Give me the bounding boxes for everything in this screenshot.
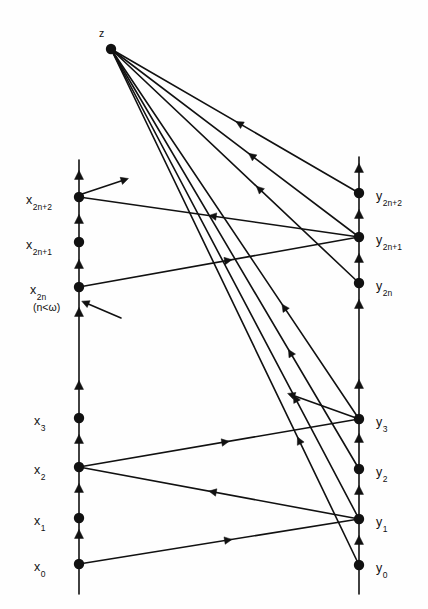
left-chain-arrowhead-0 xyxy=(75,170,84,179)
left-chain-arrowhead-1 xyxy=(75,214,84,223)
label-y2: y2 xyxy=(376,462,387,482)
node-y2n1[interactable] xyxy=(354,232,364,242)
label-x2-subscript: 2 xyxy=(41,472,46,482)
nodes-group xyxy=(74,44,364,570)
label-x2n2-subscript: 2n+2 xyxy=(33,202,52,212)
left-chain-arrowhead-7 xyxy=(75,529,84,538)
chain-arrowheads-group xyxy=(75,163,364,544)
label-y3-subscript: 3 xyxy=(383,424,388,434)
node-x2n1[interactable] xyxy=(74,237,84,247)
cross-edge-x2n-to-y2n1 xyxy=(79,237,359,287)
node-y2n2[interactable] xyxy=(354,188,364,198)
label-x0-subscript: 0 xyxy=(41,569,46,579)
label-y2n1-subscript: 2n+1 xyxy=(383,242,402,252)
node-y0[interactable] xyxy=(354,560,364,570)
label-y2n-subscript: 2n xyxy=(383,288,392,298)
right-chain-arrowhead-6 xyxy=(355,485,364,494)
fan-arrowhead-y2n1-to-z xyxy=(249,153,257,161)
label-index-range-note: (n<ω) xyxy=(33,301,60,313)
left-chain-arrowhead-6 xyxy=(75,483,84,492)
label-z: z xyxy=(99,27,104,39)
node-y2[interactable] xyxy=(354,464,364,474)
chain-axis-lines xyxy=(79,157,359,594)
label-x1-base: x xyxy=(34,514,40,528)
label-y2n2: y2n+2 xyxy=(376,186,401,206)
node-z[interactable] xyxy=(106,44,116,54)
cross-edge-x0-to-y1 xyxy=(79,519,359,564)
label-x0: x0 xyxy=(34,557,45,577)
diagram-canvas: x0x1x2x3x2nx2n+1x2n+2y0y1y2y3y2ny2n+1y2n… xyxy=(0,0,428,609)
label-y1-subscript: 1 xyxy=(383,524,388,534)
label-y2-base: y xyxy=(376,465,382,479)
label-y2n2-base: y xyxy=(376,189,382,203)
label-x3-base: x xyxy=(34,414,40,428)
node-x0[interactable] xyxy=(74,559,84,569)
cross-arrowhead-x0-to-y1 xyxy=(224,537,232,544)
label-y2n1-base: y xyxy=(376,233,382,247)
cross-arrowhead-x2-to-y3 xyxy=(221,439,229,446)
cross-arrowhead-y1-to-x2 xyxy=(209,489,217,496)
label-x2n: x2n xyxy=(30,280,46,300)
label-y0-base: y xyxy=(376,561,382,575)
dangling-edge-x2n-incoming xyxy=(86,303,121,318)
label-x3: x3 xyxy=(34,411,45,431)
fan-edge-y3-to-z xyxy=(111,49,359,419)
dangling-edge-x2n2-outgoing xyxy=(82,180,124,194)
right-chain-arrowhead-4 xyxy=(355,379,364,388)
fan-edge-y2n1-to-z xyxy=(111,49,359,237)
right-chain-arrowhead-3 xyxy=(355,299,364,308)
right-chain-arrowhead-7 xyxy=(355,535,364,544)
label-y1: y1 xyxy=(376,512,387,532)
label-y2n1: y2n+1 xyxy=(376,230,401,250)
label-y3: y3 xyxy=(376,412,387,432)
label-y2n-base: y xyxy=(376,279,382,293)
cross-edge-y3-to-dangle xyxy=(292,395,359,419)
label-x2n1: x2n+1 xyxy=(26,235,51,255)
label-y3-base: y xyxy=(376,415,382,429)
label-y2-subscript: 2 xyxy=(383,474,388,484)
graph-svg xyxy=(0,0,428,609)
fan-edge-y2n-to-z xyxy=(111,49,359,283)
label-y0-subscript: 0 xyxy=(383,570,388,580)
label-x2n-base: x xyxy=(30,283,36,297)
label-x2: x2 xyxy=(34,460,45,480)
cross-edge-x2-to-y3 xyxy=(79,419,359,467)
node-x2n2[interactable] xyxy=(74,192,84,202)
left-chain-arrowhead-5 xyxy=(75,434,84,443)
right-chain-arrowhead-0 xyxy=(355,163,364,172)
cross-arrowhead-x2n-to-y2n1 xyxy=(224,257,232,264)
node-x1[interactable] xyxy=(74,513,84,523)
right-chain-arrowhead-1 xyxy=(355,209,364,218)
label-y0: y0 xyxy=(376,558,387,578)
cross-arrowhead-y2n1-to-x2n2 xyxy=(209,213,217,220)
left-chain-arrowhead-3 xyxy=(75,307,84,316)
fan-edge-y1-to-z xyxy=(111,49,359,519)
fan-edge-y0-to-z xyxy=(111,49,359,565)
label-y2n: y2n xyxy=(376,276,392,296)
label-y1-base: y xyxy=(376,515,382,529)
node-y3[interactable] xyxy=(354,414,364,424)
fan-arrowhead-y3-to-z xyxy=(282,304,289,312)
node-x3[interactable] xyxy=(74,413,84,423)
node-y2n[interactable] xyxy=(354,278,364,288)
label-x2n1-subscript: 2n+1 xyxy=(33,247,52,257)
label-x2-base: x xyxy=(34,463,40,477)
cross-edge-y1-to-x2 xyxy=(79,467,359,519)
node-x2n[interactable] xyxy=(74,282,84,292)
node-y1[interactable] xyxy=(354,514,364,524)
label-x2n1-base: x xyxy=(26,238,32,252)
node-x2[interactable] xyxy=(74,462,84,472)
fan-edges-group xyxy=(111,49,359,565)
right-chain-arrowhead-5 xyxy=(355,433,364,442)
label-x0-base: x xyxy=(34,560,40,574)
dangling-arrowhead-x2n2-outgoing xyxy=(120,177,128,184)
dangling-arrowhead-x2n-incoming xyxy=(82,301,90,308)
label-y2n2-subscript: 2n+2 xyxy=(383,198,402,208)
label-x1: x1 xyxy=(34,511,45,531)
left-chain-arrowhead-2 xyxy=(75,259,84,268)
label-x2n2: x2n+2 xyxy=(26,190,51,210)
left-chain-arrowhead-4 xyxy=(75,380,84,389)
label-x2n2-base: x xyxy=(26,193,32,207)
label-x3-subscript: 3 xyxy=(41,423,46,433)
right-chain-arrowhead-2 xyxy=(355,253,364,262)
